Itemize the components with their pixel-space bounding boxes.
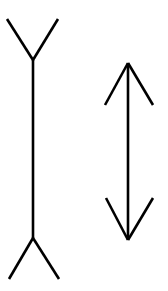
figure-outward-fins	[7, 19, 59, 279]
figure-inward-arrowheads	[105, 63, 153, 240]
outward-fins-line-fin-2	[9, 238, 33, 279]
outward-fins-line-fin-1	[33, 19, 58, 60]
inward-arrowheads-line-fin-1	[128, 63, 153, 105]
inward-arrowheads-line-fin-0	[105, 63, 128, 105]
muller-lyer-diagram	[0, 0, 168, 291]
inward-arrowheads-line-fin-3	[128, 198, 153, 240]
inward-arrowheads-line-fin-2	[106, 198, 128, 240]
outward-fins-line-fin-3	[33, 238, 59, 279]
diagram-svg	[0, 0, 168, 291]
outward-fins-line-fin-0	[7, 19, 33, 60]
